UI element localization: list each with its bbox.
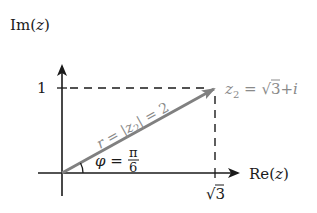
svg-text:z2 = √3+i: z2 = √3+i: [224, 80, 298, 100]
x-tick-label: √3: [206, 185, 225, 203]
svg-text:π: π: [129, 145, 138, 160]
y-tick-label: 1: [37, 79, 47, 97]
svg-text:φ =: φ =: [95, 152, 123, 170]
complex-plane-diagram: Im(z) Re(z) 1 √3 z2 = √3+i r = |z2| = 2 …: [0, 0, 317, 213]
svg-text:6: 6: [129, 160, 137, 175]
x-axis-label: Re(z): [249, 165, 289, 183]
angle-arc: [81, 163, 84, 173]
svg-text:√3: √3: [206, 185, 225, 203]
y-axis-label: Im(z): [10, 16, 50, 34]
point-label: z2 = √3+i: [224, 80, 298, 100]
